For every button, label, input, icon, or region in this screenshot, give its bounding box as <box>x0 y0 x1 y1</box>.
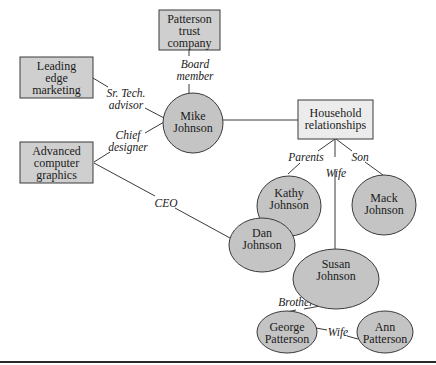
node-label-line: Johnson <box>242 238 281 252</box>
edge-ceo-top <box>94 163 155 196</box>
node-leading-edge: Leading edge marketing <box>20 57 93 98</box>
node-label-line: Johnson <box>316 269 355 283</box>
node-george-patterson: George Patterson <box>257 311 317 353</box>
edge-wife-ann-left <box>316 328 327 330</box>
edge-parents-bottom <box>288 163 300 174</box>
edge-label-ceo: CEO <box>155 197 179 209</box>
edge-chief-designer-top <box>145 122 164 133</box>
node-household: Household relationships <box>298 100 373 139</box>
node-patterson-trust: Patterson trust company <box>159 10 220 50</box>
edge-parents-top <box>318 139 335 151</box>
node-dan-johnson: Dan Johnson <box>229 218 295 272</box>
node-advanced-graphics: Advanced computer graphics <box>20 142 93 183</box>
node-label-line: Johnson <box>364 203 403 217</box>
edge-label-son: Son <box>351 151 369 163</box>
edge-son-top <box>336 139 352 151</box>
edge-wife-ann-right <box>347 336 358 339</box>
node-label-line: marketing <box>32 83 81 97</box>
node-label-line: company <box>168 36 212 50</box>
edge-label-board-member-1: Board <box>181 58 210 70</box>
edge-label-wife-ann: Wife <box>328 326 348 339</box>
node-label-line: Patterson <box>363 332 408 346</box>
node-label-line: graphics <box>36 168 77 182</box>
node-susan-johnson: Susan Johnson <box>293 249 379 309</box>
edge-label-wife: Wife <box>326 167 346 180</box>
node-label-line: relationships <box>305 118 367 132</box>
edge-label-parents: Parents <box>287 151 324 163</box>
edge-sr-tech-top <box>93 78 108 87</box>
node-mack-johnson: Mack Johnson <box>352 175 416 235</box>
edge-son-bottom <box>365 162 383 175</box>
node-label-line: Patterson <box>265 332 310 346</box>
edge-label-sr-tech-1: Sr. Tech. <box>107 87 146 99</box>
edge-sr-tech-bottom <box>145 108 164 118</box>
relationship-diagram: Board member Sr. Tech. advisor Chief des… <box>0 0 436 365</box>
node-label-line: Johnson <box>173 121 212 135</box>
edge-label-board-member-2: member <box>176 70 214 82</box>
edge-label-chief-designer-2: designer <box>108 141 148 154</box>
node-label-line: Johnson <box>269 198 308 212</box>
edge-chief-designer-bottom <box>94 152 110 162</box>
edge-label-sr-tech-2: advisor <box>109 99 144 111</box>
node-mike-johnson: Mike Johnson <box>163 93 223 153</box>
node-ann-patterson: Ann Patterson <box>357 311 413 353</box>
edge-ceo-bottom <box>175 208 230 238</box>
